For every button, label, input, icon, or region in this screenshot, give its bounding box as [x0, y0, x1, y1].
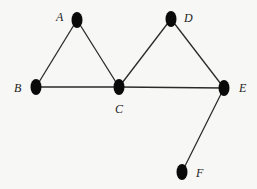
node-e: [219, 80, 230, 96]
node-label-e: E: [239, 82, 246, 94]
node-b: [31, 79, 42, 95]
edge-a-b: [36, 20, 77, 87]
edges-layer: [36, 19, 224, 172]
node-label-b: B: [14, 82, 21, 94]
graph-diagram: A B C D E F: [0, 0, 257, 189]
edge-c-d: [119, 19, 171, 87]
node-c: [114, 79, 125, 95]
edge-c-e: [119, 87, 224, 88]
node-f: [177, 164, 188, 180]
node-label-c: C: [115, 103, 123, 115]
nodes-layer: [31, 11, 230, 180]
node-a: [72, 12, 83, 28]
node-label-f: F: [196, 167, 203, 179]
node-d: [166, 11, 177, 27]
edge-a-c: [77, 20, 119, 87]
node-label-d: D: [184, 12, 193, 24]
edge-e-f: [182, 88, 224, 172]
node-label-a: A: [56, 11, 63, 23]
edge-d-e: [171, 19, 224, 88]
graph-svg: [0, 0, 257, 189]
